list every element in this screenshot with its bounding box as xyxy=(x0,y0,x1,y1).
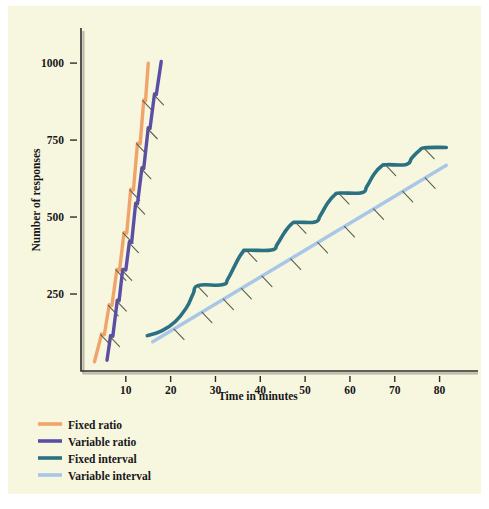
reinforcement-hatch-mark xyxy=(223,299,233,310)
reinforcement-hatch-mark xyxy=(339,194,349,205)
series-line xyxy=(153,165,447,341)
x-tick-label: 20 xyxy=(165,384,177,396)
series-variable-ratio xyxy=(107,62,164,361)
series-line xyxy=(107,62,161,361)
y-tick-label: 750 xyxy=(47,134,65,146)
reinforcement-hatch-mark xyxy=(386,165,396,176)
legend-label: Variable ratio xyxy=(68,436,136,448)
legend-label: Fixed ratio xyxy=(68,419,122,431)
reinforcement-hatch-mark xyxy=(374,209,384,220)
reinforcement-hatch-mark xyxy=(197,286,207,297)
series-variable-interval xyxy=(153,165,447,341)
reinforcement-hatch-mark xyxy=(424,148,434,159)
y-axis-tick-labels: 2505007501000 xyxy=(41,57,64,300)
reinforcement-hatch-mark xyxy=(344,226,354,237)
reinforcement-hatch-mark xyxy=(296,223,306,234)
axes-layer xyxy=(70,28,478,382)
series-line xyxy=(94,63,148,362)
reinforcement-hatch-mark xyxy=(262,276,272,287)
figure-root: 1020304050607080 2505007501000 Time in m… xyxy=(0,0,489,509)
x-tick-label: 10 xyxy=(120,384,132,396)
y-tick-label: 1000 xyxy=(41,57,64,69)
y-axis-ticks xyxy=(70,63,77,294)
reinforcement-schedule-chart: 1020304050607080 2505007501000 Time in m… xyxy=(0,0,489,509)
x-axis-title: Time in minutes xyxy=(218,390,298,402)
series-fixed-ratio xyxy=(94,63,152,362)
series-layer xyxy=(94,62,446,362)
reinforcement-hatch-mark xyxy=(241,288,251,299)
reinforcement-hatch-mark xyxy=(247,251,257,261)
x-tick-label: 80 xyxy=(434,384,446,396)
y-tick-label: 250 xyxy=(47,288,65,300)
reinforcement-hatch-mark xyxy=(291,259,301,270)
x-axis-ticks xyxy=(126,376,440,382)
legend-label: Fixed interval xyxy=(68,453,137,465)
series-fixed-interval xyxy=(147,147,446,335)
x-tick-label: 60 xyxy=(344,384,356,396)
legend-label: Variable interval xyxy=(68,470,151,482)
x-tick-label: 50 xyxy=(299,384,311,396)
reinforcement-hatch-mark xyxy=(425,178,435,189)
axis-drop-shadow xyxy=(83,31,478,373)
reinforcement-hatch-mark xyxy=(318,242,328,253)
y-tick-label: 500 xyxy=(47,211,65,223)
chart-legend: Fixed ratioVariable ratioFixed intervalV… xyxy=(38,419,151,482)
reinforcement-hatch-mark xyxy=(403,191,413,202)
y-axis-title: Number of responses xyxy=(30,148,43,252)
series-line xyxy=(147,147,446,335)
reinforcement-hatch-mark xyxy=(202,312,212,323)
reinforcement-hatch-mark xyxy=(174,329,184,340)
axis-lines xyxy=(81,28,478,371)
x-tick-label: 70 xyxy=(389,384,401,396)
